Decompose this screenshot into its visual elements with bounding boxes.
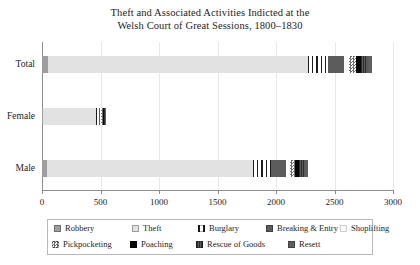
bar-segment [368,56,372,73]
bar-segment [349,56,356,73]
legend-item: Poaching [130,240,173,249]
bar-segment [48,56,307,73]
bar-segment [105,108,106,125]
legend-item: Theft [132,224,161,233]
legend-item: Rescue of Goods [196,240,265,249]
legend-row-1: RobberyTheftBurglaryBreaking & EntryShop… [48,224,372,239]
x-axis-label: 3000 [384,197,402,207]
x-axis-tick [276,190,277,194]
legend-swatch-icon [132,225,139,232]
plot-area: 050010001500200025003000TotalFemaleMale [42,42,393,190]
legend-label: Pickpocketing [63,240,112,249]
gridline [393,42,394,190]
bar-total [42,56,393,73]
legend-swatch-icon [266,225,273,232]
x-axis-label: 500 [94,197,108,207]
bar-segment [308,56,328,73]
x-axis-label: 0 [40,197,45,207]
legend-label: Resett [299,240,320,249]
x-axis-label: 1500 [209,197,227,207]
bar-segment [361,56,368,73]
legend-label: Breaking & Entry [277,224,338,233]
x-axis-tick [335,190,336,194]
chart-title: Theft and Associated Activities Indicted… [0,6,420,32]
legend-item: Robbery [54,224,94,233]
legend-label: Shoplifting [351,224,389,233]
y-axis-label-total: Total [16,59,35,69]
legend-swatch-icon [288,241,295,248]
x-axis-tick [42,190,43,194]
legend-item: Resett [288,240,320,249]
legend-item: Shoplifting [340,224,389,233]
legend-label: Robbery [65,224,94,233]
legend-label: Theft [143,224,161,233]
bar-segment [328,56,344,73]
x-axis-tick [393,190,394,194]
legend-swatch-icon [54,225,61,232]
legend-swatch-icon [196,241,203,248]
bar-female [42,108,393,125]
legend-row-2: PickpocketingPoachingRescue of GoodsRese… [48,240,372,255]
bar-segment [305,160,308,177]
x-axis-label: 2000 [267,197,285,207]
x-axis-tick [101,190,102,194]
bar-segment [253,160,271,177]
legend-label: Rescue of Goods [207,240,265,249]
y-axis-label-male: Male [15,163,35,173]
bar-segment [47,160,253,177]
legend-swatch-icon [340,225,347,232]
bar-male [42,160,393,177]
legend-label: Poaching [141,240,173,249]
chart-title-line-1: Theft and Associated Activities Indicted… [0,6,420,19]
legend-swatch-icon [52,241,59,248]
legend-swatch-icon [198,225,205,232]
chart-title-line-2: Welsh Court of Great Sessions, 1800–1830 [0,19,420,32]
legend-item: Breaking & Entry [266,224,338,233]
x-axis-label: 2500 [326,197,344,207]
chart-figure: Theft and Associated Activities Indicted… [0,0,420,265]
chart-legend: RobberyTheftBurglaryBreaking & EntryShop… [47,219,373,255]
x-axis-tick [218,190,219,194]
bar-segment [43,108,96,125]
legend-item: Burglary [198,224,239,233]
legend-item: Pickpocketing [52,240,112,249]
x-axis-tick [159,190,160,194]
y-axis-label-female: Female [7,111,35,121]
legend-swatch-icon [130,241,137,248]
bar-segment [271,160,286,177]
legend-label: Burglary [209,224,239,233]
x-axis-label: 1000 [150,197,168,207]
